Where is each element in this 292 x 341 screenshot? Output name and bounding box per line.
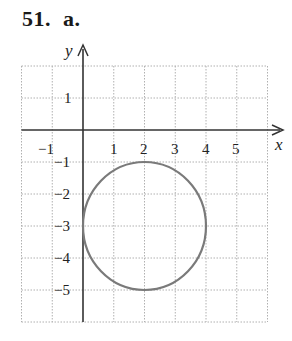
x-tick-label: 5 (232, 141, 240, 157)
y-tick-label: −1 (54, 154, 70, 170)
y-tick-label: −3 (54, 218, 70, 234)
y-axis-label: y (63, 41, 73, 60)
y-tick-label: −4 (54, 250, 70, 266)
x-tick-label: −1 (38, 141, 54, 157)
coordinate-plot: x y −1 1 2 3 4 5 1 −1 −2 −3 −4 −5 (0, 0, 292, 341)
y-tick-label: −2 (54, 186, 70, 202)
y-tick-labels: 1 −1 −2 −3 −4 −5 (54, 90, 72, 298)
x-axis-label: x (274, 135, 283, 154)
x-tick-label: 3 (171, 141, 179, 157)
x-tick-label: 4 (202, 141, 210, 157)
y-tick-label: −5 (54, 282, 70, 298)
x-tick-label: 1 (110, 141, 118, 157)
x-tick-label: 2 (140, 141, 148, 157)
y-tick-label: 1 (64, 90, 72, 106)
